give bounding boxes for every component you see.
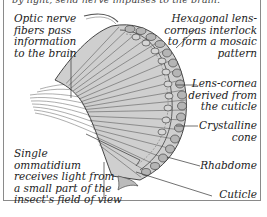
label-line: to form a mosaic (164, 36, 257, 48)
label-lens-cornea: Lens-cornea derived from the cuticle (188, 78, 257, 113)
label-line: the cuticle (188, 101, 257, 113)
label-single-ommatidium: Single ommatidium receives light from a … (14, 148, 122, 206)
label-line: Rhabdome (200, 160, 257, 172)
label-line: Cuticle (219, 189, 257, 201)
label-cuticle: Cuticle (219, 189, 257, 201)
label-line: receives light from (14, 171, 122, 183)
label-line: Lens-cornea (188, 78, 257, 90)
label-line: pattern (164, 48, 257, 60)
label-line: cone (199, 132, 257, 144)
label-line: Hexagonal lens- (164, 13, 257, 25)
label-line: insect's field of view (14, 194, 122, 206)
label-optic-nerve: Optic nerve fibers pass information to t… (14, 13, 77, 59)
label-line: Crystalline (199, 120, 257, 132)
label-rhabdome: Rhabdome (200, 160, 257, 172)
label-line: Optic nerve (14, 13, 77, 25)
label-crystalline-cone: Crystalline cone (199, 120, 257, 143)
label-line: Single (14, 148, 122, 160)
label-line: to the brain (14, 48, 77, 60)
label-hexagonal-lens-corneas: Hexagonal lens- corneas interlock to for… (164, 13, 257, 59)
label-line: information (14, 36, 77, 48)
